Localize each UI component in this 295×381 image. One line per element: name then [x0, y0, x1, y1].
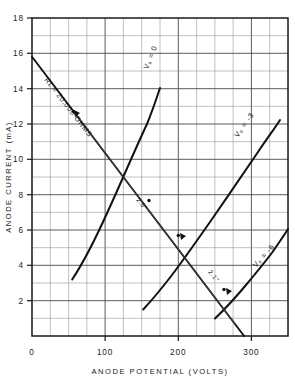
- y-tick-label-6: 6: [19, 226, 24, 235]
- x-axis-title: ANODE POTENTIAL (VOLTS): [91, 367, 228, 376]
- operating-point-marker: [147, 199, 150, 202]
- anode-characteristic-chart: 18 16 14 12 10 8 6 4 2 0 100 200 300 ANO…: [0, 0, 295, 381]
- y-tick-label-8: 8: [19, 191, 24, 200]
- y-tick-label-10: 10: [13, 155, 24, 164]
- y-tick-label-18: 18: [13, 14, 24, 23]
- y-tick-label-14: 14: [13, 85, 24, 94]
- y-tick-label-4: 4: [19, 261, 24, 270]
- y-axis-title: ANODE CURRENT (mA): [4, 121, 13, 233]
- operating-point-marker: [177, 234, 180, 237]
- operating-point-marker: [222, 288, 225, 291]
- x-tick-label-200: 200: [170, 348, 186, 357]
- chart-figure: 18 16 14 12 10 8 6 4 2 0 100 200 300 ANO…: [0, 0, 295, 381]
- x-tick-label-100: 100: [97, 348, 113, 357]
- y-tick-label-2: 2: [19, 297, 24, 306]
- y-tick-label-16: 16: [13, 49, 24, 58]
- x-tick-label-0: 0: [29, 348, 34, 357]
- y-tick-label-12: 12: [13, 120, 24, 129]
- x-tick-label-300: 300: [243, 348, 259, 357]
